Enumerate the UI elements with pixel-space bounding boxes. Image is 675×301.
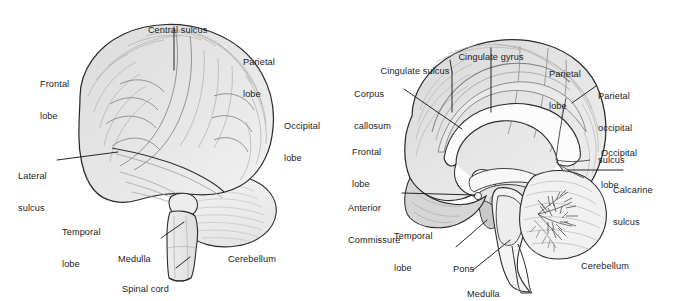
label-cerebellum-sagittal: Cerebellum (581, 240, 647, 282)
label-medulla-sagittal: Medulla (467, 268, 515, 301)
label-parietal-lobe-sagittal: Parietal lobe (549, 48, 603, 122)
label-occipital-lobe-lateral: Occipital lobe (284, 100, 342, 174)
label-temporal-lobe-lateral: Temporal lobe (62, 206, 124, 280)
label-temporal-lobe-sagittal: Temporal lobe (394, 210, 454, 284)
anterior-commissure-marker (474, 192, 481, 199)
label-frontal-lobe-lateral: Frontal lobe (40, 58, 100, 132)
label-calcarine-sulcus: Calcarine sulcus (613, 164, 673, 238)
label-cerebellum-lateral: Cerebellum (228, 233, 294, 275)
label-central-sulcus: Central sulcus (120, 14, 230, 35)
label-spinal-cord: Spinal cord (122, 263, 184, 301)
